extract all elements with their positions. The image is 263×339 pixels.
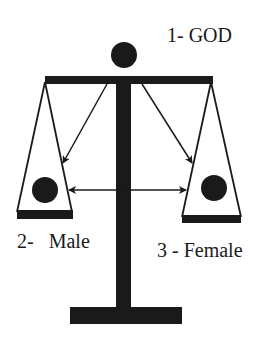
female-label: 3 - Female: [157, 240, 243, 260]
scale-pole: [116, 76, 131, 310]
god-label: 1- GOD: [167, 25, 232, 45]
balance-scale-diagram: [0, 0, 263, 339]
arrow-god-to-female: [142, 84, 192, 163]
god-circle: [111, 42, 137, 68]
arrow-god-to-male: [63, 84, 107, 163]
scale-base: [70, 307, 182, 324]
left-pan: [17, 82, 73, 219]
right-pan: [182, 82, 241, 223]
male-circle: [32, 177, 58, 203]
female-circle: [201, 175, 227, 201]
male-label: 2- Male: [17, 231, 90, 251]
